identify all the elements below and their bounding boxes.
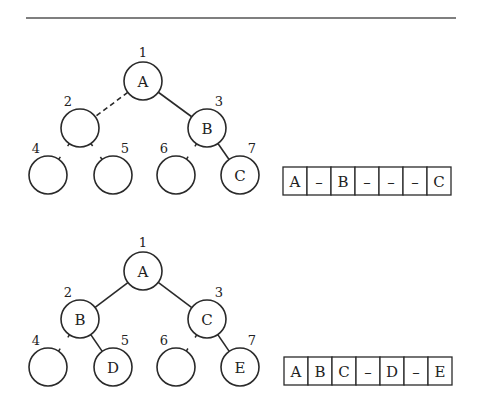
node-index: 2 bbox=[64, 94, 72, 109]
tree-node-3: B3 bbox=[188, 94, 226, 147]
node-index: 1 bbox=[139, 45, 147, 60]
node-index: 5 bbox=[121, 333, 129, 348]
node-index: 7 bbox=[248, 141, 256, 156]
node-label: A bbox=[137, 73, 149, 91]
diagram-canvas: A12B3456C7A–B–––CA1B2C34D56E7ABC–D–E bbox=[0, 0, 478, 420]
array-cell-value: A bbox=[289, 173, 301, 191]
node-index: 3 bbox=[215, 94, 223, 109]
node-index: 2 bbox=[64, 285, 72, 300]
array-cell-value: – bbox=[411, 173, 419, 191]
tree-node-5: 5 bbox=[94, 141, 132, 194]
node-label: C bbox=[234, 167, 245, 185]
node-index: 5 bbox=[121, 141, 129, 156]
tree-edge bbox=[158, 282, 192, 307]
node-circle bbox=[157, 156, 195, 194]
node-index: 4 bbox=[32, 141, 40, 156]
tree-edge bbox=[218, 335, 229, 352]
array-representation: A–B–––C bbox=[283, 167, 451, 195]
node-label: C bbox=[201, 311, 212, 329]
tree-node-6: 6 bbox=[157, 333, 195, 386]
node-circle bbox=[94, 156, 132, 194]
node-circle bbox=[29, 348, 67, 386]
node-circle bbox=[61, 109, 99, 147]
array-cell-value: C bbox=[433, 173, 444, 191]
tree-edge-dashed bbox=[95, 92, 128, 116]
node-circle bbox=[29, 156, 67, 194]
tree-edge bbox=[218, 144, 229, 160]
tree-node-5: D5 bbox=[94, 333, 132, 386]
node-index: 3 bbox=[215, 285, 223, 300]
array-cell-value: – bbox=[363, 173, 371, 191]
tree-node-7: C7 bbox=[221, 141, 259, 194]
array-cell-value: A bbox=[290, 363, 302, 381]
array-cell-value: D bbox=[386, 363, 398, 381]
node-index: 6 bbox=[160, 333, 168, 348]
array-cell-value: – bbox=[364, 363, 372, 381]
node-index: 1 bbox=[139, 235, 147, 250]
array-cell-value: E bbox=[435, 363, 446, 381]
tree-node-2: 2 bbox=[61, 94, 99, 147]
node-label: B bbox=[74, 311, 85, 329]
array-cell-value: – bbox=[387, 173, 395, 191]
array-cell-value: – bbox=[315, 173, 323, 191]
tree-node-3: C3 bbox=[188, 285, 226, 338]
tree-1: A12B3456C7A–B–––C bbox=[29, 45, 451, 195]
node-index: 6 bbox=[160, 141, 168, 156]
node-label: E bbox=[235, 359, 246, 377]
node-circle bbox=[157, 348, 195, 386]
tree-edge bbox=[95, 283, 128, 308]
node-label: A bbox=[137, 263, 149, 281]
tree-node-4: 4 bbox=[29, 141, 67, 194]
array-cell-value: B bbox=[314, 363, 325, 381]
tree-node-7: E7 bbox=[221, 333, 259, 386]
node-index: 4 bbox=[32, 333, 40, 348]
tree-2: A1B2C34D56E7ABC–D–E bbox=[29, 235, 452, 386]
tree-node-4: 4 bbox=[29, 333, 67, 386]
tree-node-2: B2 bbox=[61, 285, 99, 338]
node-label: D bbox=[107, 359, 119, 377]
array-cell-value: C bbox=[338, 363, 349, 381]
node-label: B bbox=[201, 120, 212, 138]
node-index: 7 bbox=[248, 333, 256, 348]
array-cell-value: – bbox=[412, 363, 420, 381]
diagrams: A12B3456C7A–B–––CA1B2C34D56E7ABC–D–E bbox=[29, 45, 452, 386]
tree-edge bbox=[158, 92, 191, 117]
tree-node-1: A1 bbox=[124, 45, 162, 100]
array-cell-value: B bbox=[337, 173, 348, 191]
tree-edge bbox=[91, 335, 102, 352]
array-representation: ABC–D–E bbox=[284, 357, 452, 385]
tree-node-6: 6 bbox=[157, 141, 195, 194]
tree-node-1: A1 bbox=[124, 235, 162, 290]
